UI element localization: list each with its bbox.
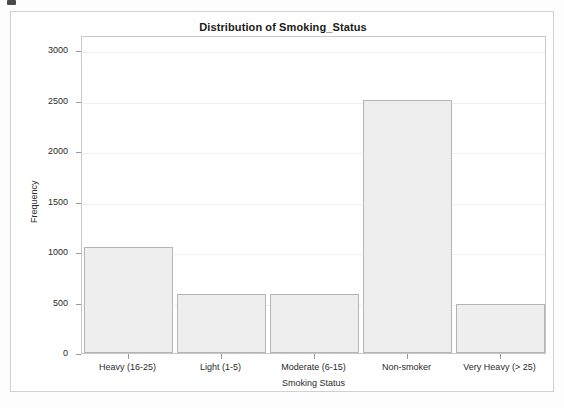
chart-title: Distribution of Smoking_Status [11,21,555,33]
bar [84,247,173,353]
bars-layer [82,37,545,353]
y-tick-label: 0 [28,348,68,358]
y-tick-label: 2000 [28,146,68,156]
x-tick [500,354,501,359]
y-tick-label: 1500 [28,197,68,207]
y-tick-label: 1000 [28,247,68,257]
y-tick [76,354,81,355]
bar [270,294,359,353]
x-tick [221,354,222,359]
bar [456,304,545,353]
chart-screenshot: Distribution of Smoking_Status Frequency… [0,0,564,408]
y-tick-label: 3000 [28,45,68,55]
x-tick [128,354,129,359]
x-axis-title: Smoking Status [81,378,546,388]
y-tick-label: 500 [28,298,68,308]
bar [177,294,266,353]
x-tick [407,354,408,359]
corner-mark-icon [7,0,16,5]
plot-area [81,36,546,354]
figure-frame: Distribution of Smoking_Status Frequency… [10,11,554,392]
x-tick [314,354,315,359]
bar [363,100,452,353]
x-tick-label: Very Heavy (> 25) [440,362,560,372]
y-tick-label: 2500 [28,96,68,106]
